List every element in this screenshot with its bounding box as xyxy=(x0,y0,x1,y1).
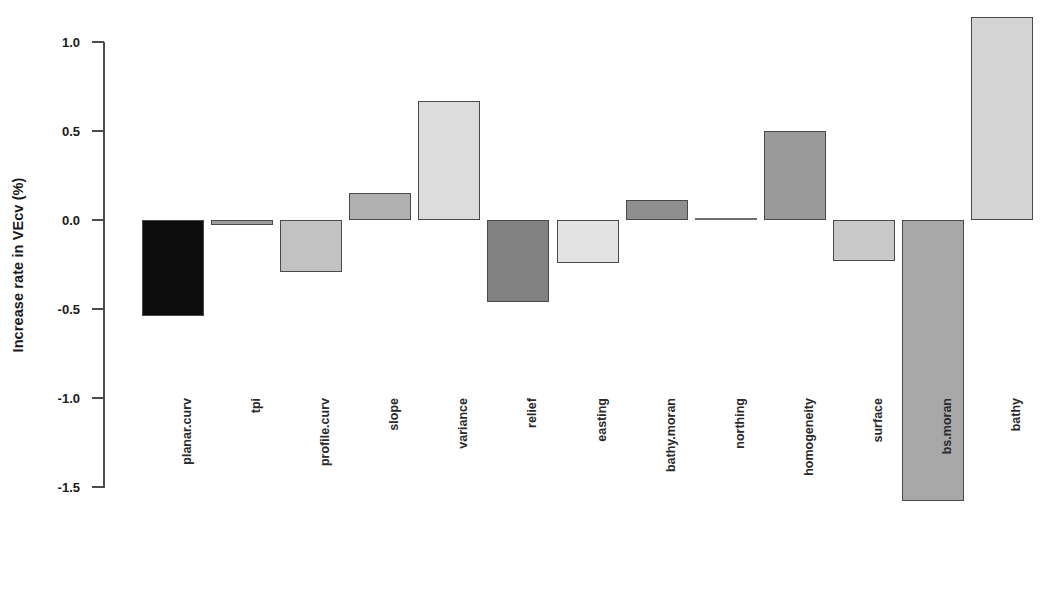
bar-planar-curv xyxy=(142,220,204,316)
x-axis-label-slope: slope xyxy=(386,398,402,508)
x-axis-label-relief: relief xyxy=(524,398,540,508)
bar-profile-curv xyxy=(280,220,342,272)
bar-variance xyxy=(418,101,480,220)
x-axis-label-bathy: bathy xyxy=(1008,398,1024,508)
x-axis-label-variance: variance xyxy=(455,398,471,508)
bar-relief xyxy=(487,220,549,302)
bar-homogeneity xyxy=(764,131,826,220)
bar-northing xyxy=(695,218,757,220)
bar-chart-figure: Increase rate in VEcv (%) 1.00.50.0-0.5-… xyxy=(0,0,1057,610)
x-axis-label-bs-moran: bs.moran xyxy=(939,398,955,508)
x-axis-label-homogeneity: homogeneity xyxy=(801,398,817,508)
x-axis-label-easting: easting xyxy=(594,398,610,508)
bar-easting xyxy=(557,220,619,263)
x-axis-label-planar-curv: planar.curv xyxy=(179,398,195,508)
x-axis-label-profile-curv: profile.curv xyxy=(317,398,333,508)
bar-tpi xyxy=(211,220,273,225)
bar-surface xyxy=(833,220,895,261)
bar-bathy xyxy=(971,17,1033,220)
bar-bathy-moran xyxy=(626,200,688,220)
x-axis-label-tpi: tpi xyxy=(248,398,264,508)
plot-area: planar.curvtpiprofile.curvslopevariancer… xyxy=(0,0,1057,610)
x-axis-label-northing: northing xyxy=(732,398,748,508)
x-axis-label-bathy-moran: bathy.moran xyxy=(663,398,679,508)
bar-slope xyxy=(349,193,411,220)
x-axis-label-surface: surface xyxy=(870,398,886,508)
